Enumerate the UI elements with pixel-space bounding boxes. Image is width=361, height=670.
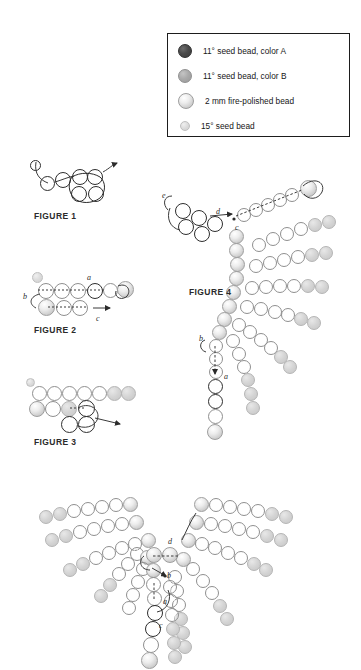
fire-polished-bead bbox=[129, 515, 144, 530]
fire-polished-bead bbox=[189, 515, 204, 530]
bead-color-b bbox=[32, 386, 47, 401]
legend-row-color-b: 11° seed bead, color B bbox=[178, 65, 286, 87]
fire-polished-bead bbox=[162, 547, 178, 563]
fire-polished-bead bbox=[146, 563, 161, 578]
seed-bead-15 bbox=[220, 612, 234, 626]
fire-polished-bead bbox=[194, 497, 209, 512]
bead-color-b bbox=[322, 215, 336, 229]
figure-4-tag-c: c bbox=[235, 223, 239, 232]
bead-color-b bbox=[62, 386, 77, 401]
bead-color-b bbox=[147, 591, 162, 606]
fire-polished-bead bbox=[29, 401, 45, 417]
bead-color-a bbox=[71, 186, 87, 202]
bead-color-a bbox=[61, 416, 78, 433]
bead-color-b bbox=[287, 279, 301, 293]
figure-2-tag-a: a bbox=[87, 273, 91, 282]
figure-5-tag-c: c bbox=[159, 621, 163, 630]
bead-color-a bbox=[88, 186, 104, 202]
fire-polished-bead bbox=[38, 299, 55, 316]
bead-color-b bbox=[241, 373, 255, 387]
legend-label-seed-15: 15° seed bead bbox=[201, 121, 255, 131]
legend-label-color-b: 11° seed bead, color B bbox=[203, 71, 286, 81]
bead-color-b bbox=[102, 546, 116, 560]
bead-color-a bbox=[147, 605, 163, 621]
seed-bead-15 bbox=[213, 599, 227, 613]
bead-color-b bbox=[277, 253, 291, 267]
fire-polished-bead-icon bbox=[178, 93, 194, 109]
bead-color-b bbox=[285, 188, 299, 202]
bead-color-b bbox=[234, 551, 248, 565]
bead-color-b bbox=[221, 546, 235, 560]
bead-color-b bbox=[92, 386, 107, 401]
bead-color-b bbox=[244, 387, 258, 401]
figure-4-tag-a: a bbox=[224, 372, 228, 381]
bead-color-b bbox=[209, 365, 223, 379]
bead-color-b bbox=[195, 537, 209, 551]
seed-bead-15 bbox=[265, 507, 279, 521]
bead-color-b bbox=[232, 522, 246, 536]
bead-color-b bbox=[122, 601, 136, 615]
bead-color-b bbox=[268, 305, 282, 319]
legend-row-fire-polished: 2 mm fire-polished bead bbox=[178, 90, 294, 112]
seed-bead-15 bbox=[59, 529, 73, 543]
bead-color-b bbox=[163, 580, 177, 594]
bead-color-b bbox=[237, 360, 251, 374]
bead-color-a bbox=[175, 203, 191, 219]
bead-color-b bbox=[131, 575, 145, 589]
figure-2-tag-c: c bbox=[96, 314, 100, 323]
bead-color-b bbox=[209, 339, 223, 353]
bead-color-b bbox=[308, 218, 322, 232]
bead-color-b bbox=[280, 227, 294, 241]
bead-color-b bbox=[81, 502, 95, 516]
bead-color-b bbox=[45, 401, 61, 417]
bead-color-a bbox=[87, 283, 103, 299]
seed-bead-15 bbox=[259, 563, 273, 577]
bead-color-b bbox=[209, 352, 223, 366]
bead-color-b bbox=[73, 525, 87, 539]
bead-color-a bbox=[207, 216, 223, 232]
bead-color-b bbox=[226, 334, 240, 348]
bead-color-b bbox=[146, 577, 161, 592]
bead-color-b bbox=[87, 522, 101, 536]
bead-color-a bbox=[191, 210, 207, 226]
seed-bead-15 bbox=[260, 529, 274, 543]
seed-bead-15 bbox=[63, 563, 77, 577]
seed-bead-15 bbox=[167, 636, 181, 650]
seed-bead-15 bbox=[32, 272, 43, 283]
bead-color-b bbox=[294, 222, 308, 236]
bead-color-b bbox=[307, 316, 321, 330]
bead-color-b bbox=[72, 300, 88, 316]
bead-color-b bbox=[205, 586, 219, 600]
bead-color-b bbox=[246, 401, 260, 415]
bead-color-b bbox=[115, 517, 129, 531]
thread-f1-arrow bbox=[103, 163, 117, 172]
bead-color-b bbox=[232, 347, 246, 361]
bead-color-b-icon bbox=[178, 69, 192, 83]
bead-color-b bbox=[305, 248, 319, 262]
seed-bead-15 bbox=[274, 533, 288, 547]
figure-2-label: FIGURE 2 bbox=[34, 325, 76, 335]
bead-color-b bbox=[246, 525, 260, 539]
figure-1-label: FIGURE 1 bbox=[34, 211, 76, 221]
bead-color-b bbox=[208, 409, 223, 424]
bead-color-b bbox=[266, 232, 280, 246]
bead-color-b bbox=[204, 517, 218, 531]
fire-polished-bead bbox=[300, 180, 317, 197]
bead-color-b bbox=[319, 246, 333, 260]
bead-color-b bbox=[301, 279, 315, 293]
bead-color-b bbox=[126, 588, 140, 602]
bead-color-b bbox=[281, 308, 295, 322]
legend-label-color-a: 11° seed bead, color A bbox=[203, 46, 286, 56]
fire-polished-bead bbox=[212, 325, 227, 340]
bead-color-b bbox=[67, 504, 81, 518]
seed-bead-15-icon bbox=[180, 121, 190, 131]
bead-color-a-icon bbox=[178, 44, 192, 58]
bead-color-a bbox=[208, 379, 223, 394]
fire-polished-bead bbox=[146, 547, 162, 563]
bead-color-b bbox=[54, 283, 70, 299]
bead-color-b bbox=[89, 551, 103, 565]
legend-box: 11° seed bead, color A 11° seed bead, co… bbox=[167, 33, 350, 137]
bead-color-b bbox=[240, 300, 254, 314]
figure-2-tag-b: b bbox=[23, 292, 27, 301]
legend-row-color-a: 11° seed bead, color A bbox=[178, 40, 286, 62]
